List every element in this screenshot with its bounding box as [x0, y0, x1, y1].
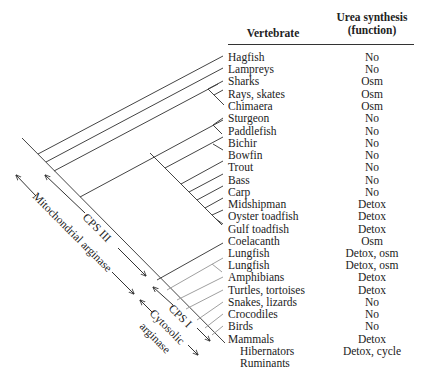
header-urea-synthesis: Urea synthesis (function) — [327, 11, 417, 37]
row-function: No — [327, 63, 417, 75]
row-name: Turtles, tortoises — [228, 284, 305, 296]
row-name: Birds — [228, 320, 253, 332]
branch-hagfish — [38, 56, 223, 154]
branch-bony-fish — [80, 154, 160, 197]
row-function: Detox, osm — [327, 259, 417, 271]
row-name: Oyster toadfish — [228, 210, 299, 222]
row-name: Trout — [228, 161, 253, 173]
row-name: Rays, skates — [228, 88, 285, 100]
row-name: Sharks — [228, 75, 259, 87]
tree-backbone — [22, 138, 225, 343]
row-function: Detox — [327, 284, 417, 296]
row-function: No — [327, 320, 417, 332]
row-function: Osm — [327, 235, 417, 247]
row-function: Detox — [327, 198, 417, 210]
row-function: No — [327, 296, 417, 308]
row-name: Midshipman — [228, 198, 286, 210]
branch-lampreys — [46, 68, 223, 162]
row-function: Detox — [327, 333, 417, 345]
row-function: No — [327, 186, 417, 198]
row-function: No — [327, 137, 417, 149]
row-function: No — [327, 308, 417, 320]
row-name: Ruminants — [240, 357, 290, 369]
row-function: Detox, cycle — [327, 345, 417, 357]
row-name: Paddlefish — [228, 125, 277, 137]
row-function: Osm — [327, 75, 417, 87]
row-name: Lampreys — [228, 63, 274, 75]
header-urea-line1: Urea synthesis — [327, 11, 417, 24]
row-name: Bass — [228, 174, 250, 186]
row-function: Osm — [327, 88, 417, 100]
branch-chondrichthyes — [54, 84, 218, 171]
row-function — [327, 357, 417, 369]
row-function: Detox — [327, 271, 417, 283]
row-function: Detox, osm — [327, 247, 417, 259]
row-name: Crocodiles — [228, 308, 278, 320]
row-name: Hagfish — [228, 51, 264, 63]
row-name: Snakes, lizards — [228, 296, 297, 308]
row-function: No — [327, 51, 417, 63]
row-function: Detox — [327, 210, 417, 222]
row-function: No — [327, 112, 417, 124]
row-function: No — [327, 161, 417, 173]
header-rule — [228, 44, 414, 45]
row-name: Coelacanth — [228, 235, 280, 247]
row-name: Sturgeon — [228, 112, 269, 124]
row-name: Lungfish — [228, 259, 270, 271]
row-name: Bichir — [228, 137, 257, 149]
row-function: No — [327, 149, 417, 161]
header-urea-line2: (function) — [327, 24, 417, 37]
row-name: Bowfin — [228, 149, 263, 161]
row-function: No — [327, 174, 417, 186]
row-name: Amphibians — [228, 271, 284, 283]
row-function: Detox — [327, 223, 417, 235]
row-name: Gulf toadfish — [228, 223, 289, 235]
row-name: Lungfish — [228, 247, 270, 259]
row-name: Carp — [228, 186, 250, 198]
teleost-backbone — [150, 153, 222, 225]
header-vertebrate: Vertebrate — [233, 27, 313, 40]
row-function: Osm — [327, 100, 417, 112]
row-name: Mammals — [228, 333, 274, 345]
row-name: Hibernators — [240, 345, 294, 357]
row-name: Chimaera — [228, 100, 273, 112]
row-function: No — [327, 125, 417, 137]
